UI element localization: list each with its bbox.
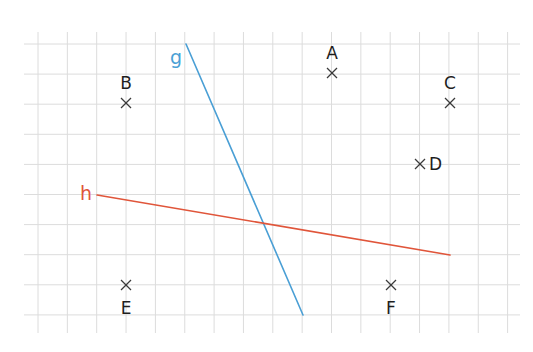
point-label-D: D [429, 154, 442, 174]
diagram-canvas: gh ABCDEF [0, 0, 533, 352]
point-C: C [444, 73, 456, 108]
line-label-h: h [80, 182, 92, 204]
point-label-E: E [121, 298, 132, 318]
line-label-g: g [170, 46, 182, 68]
point-E: E [121, 280, 132, 318]
point-label-F: F [386, 298, 396, 318]
point-A: A [326, 43, 338, 78]
cross-marker-icon [445, 98, 455, 108]
grid-diagram: gh ABCDEF [0, 0, 533, 352]
point-label-A: A [326, 43, 338, 63]
lines-layer: gh [80, 44, 450, 315]
point-B: B [120, 73, 132, 108]
point-label-B: B [120, 73, 132, 93]
point-F: F [386, 280, 396, 318]
line-g [186, 44, 303, 315]
point-label-C: C [444, 73, 456, 93]
points-layer: ABCDEF [120, 43, 456, 318]
